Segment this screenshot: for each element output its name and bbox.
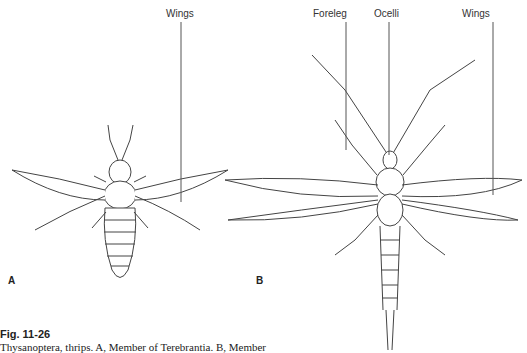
figure-caption-title: Fig. 11-26 (0, 328, 50, 340)
panel-label-b: B (256, 275, 263, 286)
label-wings-a: Wings (166, 8, 194, 19)
label-foreleg: Foreleg (313, 8, 347, 19)
label-ocelli: Ocelli (374, 8, 399, 19)
panel-label-a: A (8, 275, 15, 286)
label-wings-b: Wings (462, 8, 490, 19)
figure-caption-text: Thysanoptera, thrips. A, Member of Tereb… (0, 341, 266, 353)
